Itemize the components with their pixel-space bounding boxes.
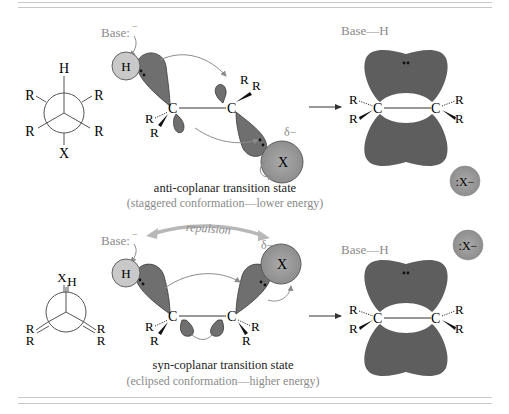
anti-caption: anti-coplanar transition state [120,181,330,196]
base-charge: − [132,21,138,32]
alkene-product-bottom: Base—H :X− C C R R R R [341,230,483,376]
halide-ion-label: :X− [456,175,475,189]
base-h-label: Base—H [341,242,389,257]
p-orbital-lobe [174,114,184,133]
carbon-right: C [431,311,440,326]
r-group: R [145,319,154,334]
r-group: R [455,302,464,317]
newman-front-top-label: X [57,270,67,285]
alkene-product-top: Base—H C C R R R R :X− [341,23,480,196]
newman-eclipsed: X H R R R R [26,270,106,348]
r-group: R [252,78,261,93]
syn-transition-state: Base: − repulsion H X δ− C C R R R [101,220,301,348]
newman-r-label: R [25,88,35,103]
base-label: Base: [101,25,130,40]
p-orbital-lobe [211,320,224,336]
carbon-left: C [373,101,382,116]
base-charge: − [132,229,138,240]
halide-ion-label: :X− [459,239,478,253]
r-group: R [455,111,464,126]
r-group: R [349,92,358,107]
newman-r-label: R [25,124,35,139]
base-h-label: Base—H [341,23,389,38]
anti-transition-state: Base: − H X δ− C C R R R R [101,21,303,183]
p-orbital-lobe [180,320,193,336]
r-group: R [240,72,249,87]
base-label: Base: [101,233,130,248]
anti-subcaption: (staggered conformation—lower energy) [100,196,350,211]
newman-front-top-label: H [59,61,69,76]
sigma-orbital-lobe [236,112,267,156]
newman-back-top-label: H [67,274,76,289]
p-orbital-lobe [215,84,226,103]
r-group: R [150,125,159,140]
sigma-orbital-lobe [135,264,170,314]
carbon-right: C [227,101,236,116]
carbon-right: C [431,101,440,116]
repulsion-label: repulsion [186,220,232,237]
sigma-orbital-lobe [137,53,170,106]
x-atom-label: X [278,155,288,170]
pi-cloud-lower [364,324,447,376]
carbon-right: C [227,309,236,324]
syn-caption: syn-coplanar transition state [118,358,328,373]
r-group: R [349,111,358,126]
r-group: R [455,321,464,336]
r-group: R [251,319,260,334]
r-group: R [242,333,251,348]
pi-cloud-lower [364,114,447,166]
newman-r-label: R [97,333,106,348]
newman-front-bottom-label: X [59,146,69,161]
pi-cloud-upper [364,260,447,312]
h-atom-label: H [121,266,130,281]
x-atom-label: X [277,257,287,272]
newman-r-label: R [94,88,104,103]
carbon-left: C [373,311,382,326]
carbon-left: C [168,309,177,324]
r-group: R [145,111,154,126]
pi-cloud-upper [364,50,447,102]
r-group: R [455,92,464,107]
partial-charge: δ− [261,238,274,252]
newman-r-label: R [94,124,104,139]
newman-r-label: R [26,333,35,348]
syn-subcaption: (eclipsed conformation—higher energy) [98,374,348,389]
carbon-left: C [168,101,177,116]
r-group: R [349,321,358,336]
partial-charge: δ− [284,125,297,139]
h-atom-label: H [121,59,130,74]
r-group: R [349,302,358,317]
r-group: R [150,333,159,348]
newman-staggered: H R R R R X [25,61,104,161]
